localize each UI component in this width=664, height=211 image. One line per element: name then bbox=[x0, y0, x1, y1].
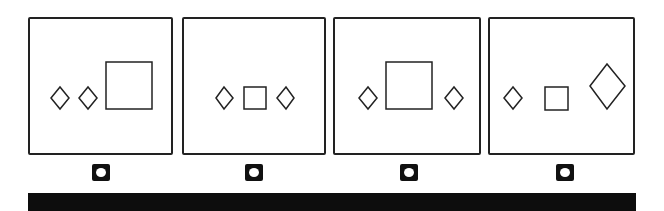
option-panel-3[interactable] bbox=[333, 17, 481, 155]
radio-dot-icon bbox=[404, 168, 414, 177]
option-radio-2[interactable] bbox=[245, 164, 263, 181]
diamond-shape bbox=[445, 87, 463, 109]
diamond-shape bbox=[277, 87, 294, 109]
option-panel-2[interactable] bbox=[182, 17, 326, 155]
option-panel-1[interactable] bbox=[28, 17, 173, 155]
diamond-shape bbox=[216, 87, 233, 109]
square-shape bbox=[545, 87, 568, 110]
square-shape bbox=[244, 87, 266, 109]
diamond-shape bbox=[79, 87, 97, 109]
square-shape bbox=[386, 62, 432, 109]
diamond-shape-large bbox=[590, 64, 625, 109]
option-panel-4[interactable] bbox=[488, 17, 635, 155]
diamond-shape bbox=[51, 87, 69, 109]
square-shape bbox=[106, 62, 152, 109]
radio-dot-icon bbox=[96, 168, 106, 177]
option-radio-1[interactable] bbox=[92, 164, 110, 181]
bottom-bar bbox=[28, 193, 636, 211]
radio-dot-icon bbox=[560, 168, 570, 177]
diamond-shape bbox=[359, 87, 377, 109]
option-radio-4[interactable] bbox=[556, 164, 574, 181]
option-radio-3[interactable] bbox=[400, 164, 418, 181]
diamond-shape bbox=[504, 87, 522, 109]
radio-dot-icon bbox=[249, 168, 259, 177]
